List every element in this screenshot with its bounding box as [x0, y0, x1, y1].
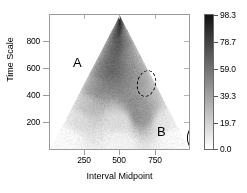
colorbar-label-590: 59.0 — [220, 65, 236, 74]
colorbar-tick-393 — [214, 96, 218, 97]
colorbar-label-983: 98.3 — [220, 11, 236, 20]
y-tick-right-400 — [184, 95, 189, 96]
annotation-label-a: A — [73, 56, 82, 69]
colorbar-tick-00 — [214, 149, 218, 150]
x-tick-top-500 — [119, 15, 120, 19]
y-tick-right-600 — [184, 68, 189, 69]
y-tick-right-200 — [184, 122, 189, 123]
colorbar-label-393: 39.3 — [220, 92, 236, 101]
heatmap-canvas — [50, 15, 189, 149]
y-tick-200 — [43, 122, 49, 123]
colorbar-tick-983 — [214, 15, 218, 16]
y-tick-label-800: 800 — [26, 37, 40, 46]
colorbar — [204, 14, 214, 150]
x-tick-top-750 — [155, 15, 156, 19]
y-tick-label-400: 400 — [26, 91, 40, 100]
colorbar-label-197: 19.7 — [220, 119, 236, 128]
plot-area — [49, 14, 190, 150]
x-tick-top-250 — [84, 15, 85, 19]
x-tick-label-500: 500 — [104, 156, 134, 165]
wavelet-heatmap-figure: A B 800 600 400 200 250 500 750 Interval… — [0, 0, 247, 193]
annotation-label-b: B — [157, 125, 166, 138]
colorbar-tick-590 — [214, 69, 218, 70]
colorbar-label-00: 0.0 — [220, 145, 231, 154]
colorbar-label-787: 78.7 — [220, 38, 236, 47]
colorbar-tick-197 — [214, 123, 218, 124]
y-tick-800 — [43, 41, 49, 42]
colorbar-tick-787 — [214, 42, 218, 43]
y-tick-right-800 — [184, 41, 189, 42]
colorbar-gradient — [205, 15, 213, 149]
x-tick-label-750: 750 — [140, 156, 170, 165]
y-tick-label-200: 200 — [26, 118, 40, 127]
y-axis-label: Time Scale — [6, 29, 15, 91]
y-tick-label-600: 600 — [26, 64, 40, 73]
y-tick-600 — [43, 68, 49, 69]
x-axis-label: Interval Midpoint — [49, 172, 190, 181]
x-tick-label-250: 250 — [69, 156, 99, 165]
y-tick-400 — [43, 95, 49, 96]
